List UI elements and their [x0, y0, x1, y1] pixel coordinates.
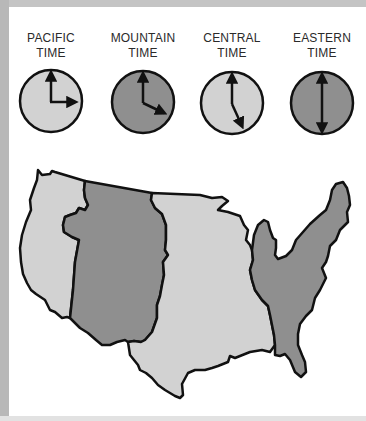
clock-central-icon [201, 72, 263, 134]
clock-eastern-icon [291, 72, 353, 134]
clock-mountain-icon [112, 71, 174, 133]
us-map [20, 170, 350, 398]
illustration [0, 0, 366, 421]
clock-pacific-icon [20, 70, 82, 132]
